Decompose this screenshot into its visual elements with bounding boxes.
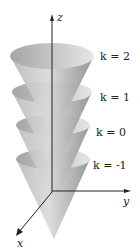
y-label: y — [123, 195, 129, 208]
level-label-k0: k = 0 — [96, 126, 126, 139]
z-arrow-icon — [50, 14, 54, 21]
cones-figure — [0, 0, 140, 249]
x-label: x — [17, 237, 23, 249]
level-label-k1: k = 1 — [100, 91, 130, 104]
level-label-k2: k = 2 — [100, 50, 130, 63]
diagram: z y x k = 2 k = 1 k = 0 k = -1 — [0, 0, 140, 249]
y-arrow-icon — [124, 189, 131, 193]
level-label-k-minus1: k = -1 — [93, 159, 127, 172]
z-label: z — [57, 11, 63, 24]
